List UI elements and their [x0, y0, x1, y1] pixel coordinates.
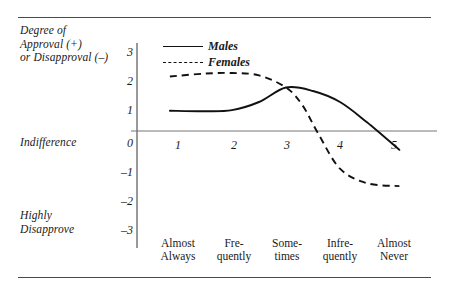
series-line-females — [170, 73, 400, 186]
figure: Degree of Approval (+) or Disapproval (–… — [0, 0, 449, 290]
plot-area — [0, 0, 449, 290]
series-line-males — [170, 87, 400, 150]
